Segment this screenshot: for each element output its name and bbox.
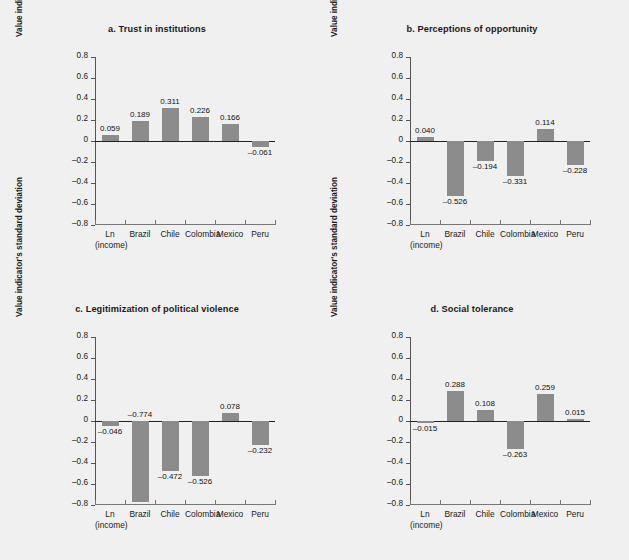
y-tick-a-5: –0.2 [91, 162, 95, 163]
panel-title-d: d. Social tolerance [315, 304, 629, 314]
bar-value-label-d-4: 0.259 [523, 383, 567, 392]
y-tick-label-b-3: 0.2 [392, 114, 403, 123]
bar-a-3 [192, 117, 209, 141]
category-label-b-0: Ln(income) [410, 229, 440, 250]
y-axis-label-d: Value indicator's standard deviation [329, 162, 341, 332]
panel-a: a. Trust in institutionsValue indicator'… [0, 0, 314, 280]
category-label-line1-a-0: Ln [105, 229, 114, 239]
panel-d: d. Social toleranceValue indicator's sta… [315, 280, 629, 560]
category-label-d-3: Colombia [500, 509, 530, 519]
category-label-d-0: Ln(income) [410, 509, 440, 530]
bar-value-label-c-3: –0.526 [178, 477, 222, 486]
y-tick-b-6: –0.4 [406, 183, 410, 184]
x-tick-d-1 [440, 500, 441, 505]
x-tick-b-2 [470, 220, 471, 225]
category-label-line1-d-5: Peru [566, 509, 584, 519]
category-label-line1-c-4: Mexico [217, 509, 244, 519]
category-label-b-5: Peru [560, 229, 590, 239]
bar-d-3 [507, 421, 524, 449]
y-tick-label-a-1: 0.6 [77, 72, 88, 81]
y-tick-c-1: 0.6 [91, 358, 95, 359]
y-tick-b-0: 0.8 [406, 57, 410, 58]
bar-c-1 [132, 421, 149, 502]
category-label-line1-b-0: Ln [420, 229, 429, 239]
category-label-line1-c-5: Peru [251, 509, 269, 519]
category-label-line2-a-0: (income) [95, 240, 125, 250]
x-tick-b-3 [500, 220, 501, 225]
y-tick-label-a-5: –0.2 [72, 156, 88, 165]
bar-value-label-b-4: 0.114 [523, 118, 567, 127]
bar-value-label-b-2: –0.194 [463, 162, 507, 171]
bar-a-2 [162, 108, 179, 141]
bar-value-label-c-1: –0.774 [118, 410, 162, 419]
y-tick-b-1: 0.6 [406, 78, 410, 79]
bar-d-2 [477, 410, 494, 421]
y-tick-label-c-3: 0.2 [77, 394, 88, 403]
x-tick-c-3 [185, 500, 186, 505]
bar-value-label-c-0: –0.046 [88, 427, 132, 436]
category-label-c-1: Brazil [125, 509, 155, 519]
category-label-line1-b-1: Brazil [445, 229, 466, 239]
y-axis-label-c: Value indicator's standard deviation [14, 162, 26, 332]
category-label-line1-d-2: Chile [475, 509, 494, 519]
x-tick-d-3 [500, 500, 501, 505]
category-label-line1-a-2: Chile [160, 229, 179, 239]
bar-a-1 [132, 121, 149, 141]
panel-c: c. Legitimization of political violenceV… [0, 280, 314, 560]
y-axis-label-a: Value indicator's standard deviation [14, 0, 26, 52]
category-label-c-4: Mexico [215, 509, 245, 519]
y-tick-c-2: 0.4 [91, 379, 95, 380]
category-label-a-0: Ln(income) [95, 229, 125, 250]
bar-a-5 [252, 141, 269, 147]
y-tick-d-0: 0.8 [406, 337, 410, 338]
bar-value-label-d-0: –0.015 [403, 424, 447, 433]
y-tick-label-b-0: 0.8 [392, 51, 403, 60]
y-tick-label-c-7: –0.6 [72, 478, 88, 487]
x-tick-d-2 [470, 500, 471, 505]
y-tick-label-c-0: 0.8 [77, 331, 88, 340]
category-label-d-1: Brazil [440, 509, 470, 519]
y-tick-label-c-1: 0.6 [77, 352, 88, 361]
bar-value-label-d-1: 0.288 [433, 380, 477, 389]
bar-a-4 [222, 124, 239, 141]
y-tick-label-c-5: –0.2 [72, 436, 88, 445]
category-label-line2-d-0: (income) [410, 520, 440, 530]
category-label-b-3: Colombia [500, 229, 530, 239]
y-tick-label-c-6: –0.4 [72, 457, 88, 466]
y-tick-label-a-0: 0.8 [77, 51, 88, 60]
y-tick-c-0: 0.8 [91, 337, 95, 338]
category-label-c-2: Chile [155, 509, 185, 519]
y-tick-d-8: –0.8 [406, 505, 410, 506]
y-tick-label-b-8: –0.8 [387, 219, 403, 228]
y-tick-label-b-5: –0.2 [387, 156, 403, 165]
x-tick-b-0 [410, 220, 411, 225]
category-label-line1-c-1: Brazil [130, 509, 151, 519]
bar-c-3 [192, 421, 209, 476]
y-tick-d-2: 0.4 [406, 379, 410, 380]
x-tick-b-1 [440, 220, 441, 225]
category-label-line1-b-2: Chile [475, 229, 494, 239]
x-tick-c-0 [95, 500, 96, 505]
y-tick-label-c-8: –0.8 [72, 499, 88, 508]
y-tick-d-1: 0.6 [406, 358, 410, 359]
y-tick-label-d-6: –0.4 [387, 457, 403, 466]
category-label-b-2: Chile [470, 229, 500, 239]
x-tick-c-1 [125, 500, 126, 505]
y-tick-a-1: 0.6 [91, 78, 95, 79]
x-tick-a-1 [125, 220, 126, 225]
x-tick-b-6 [590, 220, 591, 225]
bar-value-label-a-0: 0.059 [88, 124, 132, 133]
bar-b-3 [507, 141, 524, 176]
y-tick-label-a-7: –0.6 [72, 198, 88, 207]
x-tick-c-6 [275, 500, 276, 505]
y-tick-label-b-1: 0.6 [392, 72, 403, 81]
panel-title-c: c. Legitimization of political violence [0, 304, 314, 314]
y-tick-label-b-7: –0.6 [387, 198, 403, 207]
zero-line-a [95, 141, 275, 142]
bar-value-label-d-3: –0.263 [493, 450, 537, 459]
y-tick-label-d-1: 0.6 [392, 352, 403, 361]
category-label-line1-d-0: Ln [420, 509, 429, 519]
bar-b-2 [477, 141, 494, 161]
y-tick-a-6: –0.4 [91, 183, 95, 184]
x-tick-c-5 [245, 500, 246, 505]
